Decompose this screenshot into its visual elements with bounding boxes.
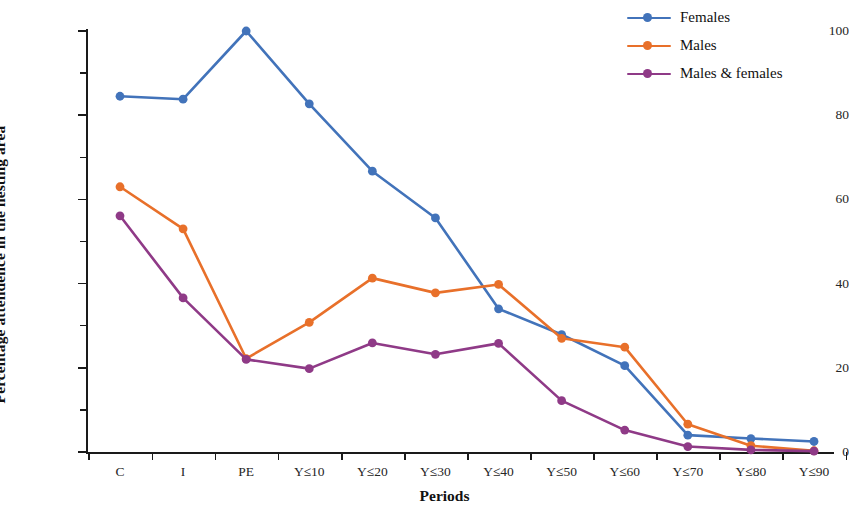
data-point [620, 361, 629, 370]
data-point [431, 350, 440, 359]
x-tick-label: Y≤50 [546, 464, 577, 480]
y-axis-title: Percentage attendence in the nesting are… [0, 0, 40, 529]
series-canvas [88, 31, 832, 452]
data-point [494, 280, 503, 289]
y-tick-major [78, 30, 86, 32]
line-chart: Percentage attendence in the nesting are… [0, 0, 849, 529]
x-tick [88, 452, 90, 460]
y-tick-minor [80, 157, 86, 159]
data-point [305, 99, 314, 108]
legend-label: Females [680, 9, 730, 26]
data-point [179, 224, 188, 233]
series-males [116, 182, 819, 455]
x-tick [341, 452, 343, 460]
x-tick [656, 452, 658, 460]
y-tick-major [78, 114, 86, 116]
data-point [368, 274, 377, 283]
data-point [305, 318, 314, 327]
y-tick-major [78, 367, 86, 369]
series-line [120, 31, 814, 441]
x-tick-label: Y≤40 [483, 464, 514, 480]
data-point [620, 426, 629, 435]
data-point [116, 92, 125, 101]
data-point [494, 339, 503, 348]
legend-marker-icon [627, 68, 671, 80]
y-tick-minor [80, 325, 86, 327]
x-tick-label: Y≤10 [294, 464, 325, 480]
x-tick [152, 452, 154, 460]
x-tick [530, 452, 532, 460]
x-tick-label: Y≤60 [609, 464, 640, 480]
series-females [116, 27, 819, 446]
data-point [494, 304, 503, 313]
data-point [557, 396, 566, 405]
x-tick-label: Y≤80 [736, 464, 767, 480]
data-point [305, 364, 314, 373]
data-point [116, 211, 125, 220]
data-point [810, 437, 819, 446]
data-point [368, 339, 377, 348]
legend: FemalesMalesMales & females [627, 9, 782, 82]
x-tick [593, 452, 595, 460]
series-line [120, 187, 814, 451]
data-point [683, 442, 692, 451]
y-tick-major [78, 451, 86, 453]
x-axis-title: Periods [0, 487, 849, 505]
x-tick [467, 452, 469, 460]
data-point [683, 431, 692, 440]
legend-item: Males & females [627, 65, 782, 82]
legend-marker-icon [627, 12, 671, 24]
x-tick-label: Y≤20 [357, 464, 388, 480]
data-point [179, 294, 188, 303]
data-point [242, 27, 251, 36]
data-point [747, 445, 756, 454]
x-tick-label: C [115, 464, 124, 480]
x-tick [404, 452, 406, 460]
data-point [179, 95, 188, 104]
x-tick [719, 452, 721, 460]
y-tick-minor [80, 409, 86, 411]
x-tick [278, 452, 280, 460]
data-point [368, 167, 377, 176]
y-tick-major [78, 283, 86, 285]
data-point [431, 214, 440, 223]
legend-marker-icon [627, 40, 671, 52]
series-males-females [116, 211, 819, 455]
series-line [120, 216, 814, 451]
x-tick-label: Y≤70 [672, 464, 703, 480]
data-point [620, 343, 629, 352]
legend-label: Males [680, 37, 717, 54]
x-tick [215, 452, 217, 460]
data-point [242, 355, 251, 364]
y-tick-minor [80, 72, 86, 74]
x-tick [782, 452, 784, 460]
x-tick-label: I [181, 464, 186, 480]
legend-label: Males & females [680, 65, 782, 82]
plot-area [88, 31, 832, 452]
legend-item: Males [627, 37, 782, 54]
x-tick-label: Y≤90 [799, 464, 830, 480]
data-point [116, 182, 125, 191]
x-axis-line [86, 452, 834, 454]
data-point [557, 334, 566, 343]
legend-item: Females [627, 9, 782, 26]
x-tick-label: Y≤30 [420, 464, 451, 480]
data-point [683, 420, 692, 429]
y-tick-minor [80, 241, 86, 243]
y-tick-major [78, 199, 86, 201]
x-tick [846, 452, 848, 460]
data-point [431, 288, 440, 297]
x-tick-label: PE [238, 464, 254, 480]
data-point [810, 447, 819, 456]
